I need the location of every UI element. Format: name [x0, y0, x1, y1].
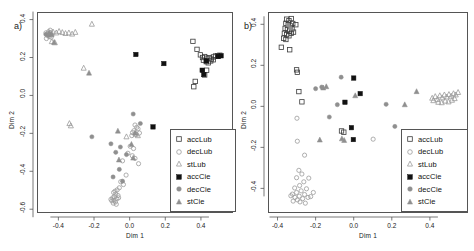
series-stCie [47, 30, 138, 162]
legend-item-accLub[interactable]: accLub [402, 133, 467, 146]
series-decCie [286, 23, 397, 129]
legend-label: accLub [418, 135, 443, 144]
series-stLub [430, 90, 461, 105]
x-tick-label: -0.2 [88, 222, 99, 229]
y-tick-label: -0.2 [19, 125, 26, 139]
panel-b: b) -0.4-0.20.00.20.40.40.20.0-0.2-0.4 Di… [237, 0, 474, 251]
legend-item-stCie[interactable]: stCie [171, 196, 235, 209]
legend-label: decCie [187, 185, 211, 194]
x-tick-label: 0.2 [387, 222, 396, 229]
legend-label: decCie [418, 185, 442, 194]
legend-label: stCie [187, 197, 205, 206]
x-axis-title-a: Dim 1 [126, 232, 144, 239]
y-tick-label: -0.4 [250, 180, 257, 194]
series-decLub [289, 116, 375, 205]
legend-item-decCie[interactable]: decCie [402, 183, 467, 196]
legend-item-stLub[interactable]: stLub [402, 158, 467, 171]
legend-marker-decLub-icon [171, 147, 187, 157]
legend-label: decLub [418, 147, 443, 156]
x-tick-label: 0.2 [161, 222, 170, 229]
y-tick-label: 0.2 [250, 57, 257, 71]
scatter-points-a [0, 0, 237, 251]
y-tick-label: 0.0 [250, 98, 257, 112]
legend-item-accCie[interactable]: accCie [171, 171, 235, 184]
legend-marker-accCie-icon [402, 172, 418, 182]
legend-marker-stCie-icon [402, 197, 418, 207]
legend-marker-stLub-icon [171, 159, 187, 169]
legend-label: accCie [418, 172, 442, 181]
legend-item-decLub[interactable]: decLub [171, 146, 235, 159]
y-tick-label: -0.6 [19, 201, 26, 215]
legend-marker-accLub-icon [402, 134, 418, 144]
legend-b: accLubdecLubstLubaccCiedecCiestCie [401, 129, 468, 212]
panel-a: a) -0.4-0.20.00.20.40.40.20.0-0.2-0.4-0.… [0, 0, 237, 251]
series-accLub [191, 39, 222, 89]
legend-item-accCie[interactable]: accCie [402, 171, 467, 184]
legend-marker-stLub-icon [402, 159, 418, 169]
y-tick-label: -0.2 [250, 139, 257, 153]
legend-item-accLub[interactable]: accLub [171, 133, 235, 146]
series-stLub [49, 21, 140, 139]
x-tick-label: 0.4 [196, 222, 205, 229]
y-tick-label: 0.4 [250, 16, 257, 30]
legend-label: accCie [187, 172, 211, 181]
legend-label: stLub [418, 160, 437, 169]
legend-marker-decCie-icon [402, 184, 418, 194]
series-accCie [134, 52, 224, 129]
legend-item-stCie[interactable]: stCie [402, 196, 467, 209]
legend-marker-accCie-icon [171, 172, 187, 182]
series-decCie [44, 32, 143, 183]
legend-label: stCie [418, 197, 436, 206]
scatter-points-b [237, 0, 474, 251]
x-tick-label: 0.0 [349, 222, 358, 229]
legend-label: stLub [187, 160, 206, 169]
legend-item-stLub[interactable]: stLub [171, 158, 235, 171]
y-tick-label: 0.2 [19, 49, 26, 63]
legend-a: accLubdecLubstLubaccCiedecCiestCie [170, 129, 236, 212]
legend-label: decLub [187, 147, 212, 156]
x-tick-label: 0.4 [425, 222, 434, 229]
y-tick-label: 0.4 [19, 11, 26, 25]
legend-item-decCie[interactable]: decCie [171, 183, 235, 196]
legend-marker-decCie-icon [171, 184, 187, 194]
legend-marker-stCie-icon [171, 197, 187, 207]
x-tick-label: 0.0 [125, 222, 134, 229]
x-tick-label: -0.2 [310, 222, 321, 229]
series-decLub [44, 28, 142, 206]
series-accLub [279, 16, 346, 134]
legend-label: accLub [187, 135, 212, 144]
figure-root: a) -0.4-0.20.00.20.40.40.20.0-0.2-0.4-0.… [0, 0, 474, 251]
legend-marker-accLub-icon [171, 134, 187, 144]
y-tick-label: 0.0 [19, 87, 26, 101]
y-axis-title-a: Dim 2 [8, 111, 15, 129]
y-tick-label: -0.4 [19, 163, 26, 177]
legend-marker-decLub-icon [402, 147, 418, 157]
x-tick-label: -0.4 [53, 222, 64, 229]
y-axis-title-b: Dim 2 [240, 111, 247, 129]
x-axis-title-b: Dim 1 [359, 232, 377, 239]
legend-item-decLub[interactable]: decLub [402, 146, 467, 159]
x-tick-label: -0.4 [272, 222, 283, 229]
